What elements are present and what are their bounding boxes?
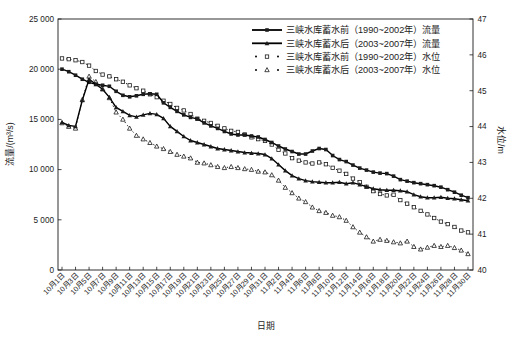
open-triangle-marker (398, 241, 402, 245)
y-right-tick-label: 47 (478, 15, 488, 24)
filled-square-marker (101, 83, 105, 87)
legend-dot (277, 69, 279, 71)
filled-square-marker (229, 132, 233, 136)
open-triangle-marker (317, 209, 321, 213)
open-square-marker (81, 60, 84, 63)
legend-label: 三峡水库蓄水前（1990~2002年）水位 (286, 51, 440, 62)
legend: 三峡水库蓄水前（1990~2002年）流量三峡水库蓄水后（2003~2007年）… (252, 24, 440, 75)
legend-dot (255, 56, 257, 58)
left-axis: 05 00010 00015 00020 00025 000 (29, 15, 62, 275)
filled-square-marker (344, 160, 348, 164)
filled-square-marker (365, 168, 369, 172)
open-square-marker (432, 216, 435, 219)
open-triangle-marker (310, 205, 314, 209)
series-0 (60, 67, 470, 199)
open-triangle-marker (209, 163, 213, 167)
filled-square-marker (453, 190, 457, 194)
open-square-marker (412, 206, 415, 209)
open-square-marker (439, 220, 442, 223)
open-square-marker (351, 177, 354, 180)
filled-square-marker (236, 133, 240, 137)
open-square-marker (121, 80, 124, 83)
open-square-marker (317, 161, 320, 164)
filled-square-marker (432, 184, 436, 188)
filled-square-marker (202, 121, 206, 125)
y-right-tick-label: 40 (478, 266, 488, 275)
open-square-marker (311, 162, 314, 165)
filled-square-marker (135, 94, 139, 98)
legend-item-2: 三峡水库蓄水前（1990~2002年）水位 (255, 51, 440, 62)
y-left-tick-label: 15 000 (29, 115, 54, 124)
open-triangle-marker (276, 178, 280, 182)
filled-square-marker (405, 179, 409, 183)
y-left-tick-label: 5 000 (34, 216, 55, 225)
filled-square-marker (358, 166, 362, 170)
open-square-marker (466, 231, 469, 234)
legend-open-square-marker (265, 55, 268, 58)
right-axis: 4041424344454647 (470, 15, 488, 275)
open-square-marker (236, 130, 239, 133)
open-square-marker (460, 229, 463, 232)
open-triangle-marker (215, 164, 219, 168)
open-triangle-marker (141, 137, 145, 141)
filled-square-marker (60, 67, 64, 71)
open-square-marker (399, 198, 402, 201)
open-square-marker (426, 213, 429, 216)
filled-square-marker (121, 94, 125, 98)
filled-square-marker (446, 188, 450, 192)
series-0-line (62, 69, 468, 198)
open-triangle-marker (202, 161, 206, 165)
filled-square-marker (426, 183, 430, 187)
legend-open-triangle-marker (265, 68, 269, 72)
open-triangle-marker (175, 152, 179, 156)
open-square-marker (229, 129, 232, 132)
open-triangle-marker (432, 243, 436, 247)
series-2-markers (60, 57, 469, 234)
open-triangle-marker (188, 156, 192, 160)
legend-label: 三峡水库蓄水后（2003~2007年）流量 (286, 38, 440, 49)
series-3 (60, 74, 470, 256)
open-triangle-marker (391, 240, 395, 244)
filled-square-marker (74, 73, 78, 77)
y-right-axis-title: 水位/m (496, 126, 507, 154)
legend-item-1: 三峡水库蓄水后（2003~2007年）流量 (252, 38, 440, 49)
open-triangle-marker (452, 245, 456, 249)
open-triangle-marker (303, 200, 307, 204)
filled-square-marker (243, 133, 247, 137)
open-square-marker (290, 156, 293, 159)
open-square-marker (94, 69, 97, 72)
filled-square-marker (216, 127, 220, 131)
open-square-marker (405, 202, 408, 205)
open-triangle-marker (459, 248, 463, 252)
filled-square-marker (311, 149, 315, 153)
filled-square-marker (385, 172, 389, 176)
open-square-marker (67, 57, 70, 60)
open-square-marker (114, 78, 117, 81)
open-triangle-marker (425, 245, 429, 249)
open-square-marker (175, 106, 178, 109)
open-triangle-marker (418, 247, 422, 251)
open-triangle-marker (134, 133, 138, 137)
series-3-markers (60, 74, 470, 256)
open-triangle-marker (324, 210, 328, 214)
filled-square-marker (270, 141, 274, 145)
filled-square-marker (108, 84, 112, 88)
open-square-marker (101, 73, 104, 76)
filled-square-marker (439, 185, 443, 189)
legend-item-3: 三峡水库蓄水后（2003~2007年）水位 (255, 64, 440, 75)
x-axis-title: 日期 (257, 321, 275, 331)
open-square-marker (189, 112, 192, 115)
open-triangle-marker (358, 230, 362, 234)
filled-square-marker (223, 130, 227, 134)
open-triangle-marker (195, 160, 199, 164)
open-square-marker (74, 59, 77, 62)
open-square-marker (223, 127, 226, 130)
open-square-marker (446, 222, 449, 225)
y-right-tick-label: 45 (478, 87, 488, 96)
series-0-markers (60, 67, 470, 199)
filled-square-marker (168, 106, 172, 110)
open-square-marker (284, 152, 287, 155)
filled-square-marker (419, 182, 423, 186)
open-square-marker (385, 194, 388, 197)
open-triangle-marker (337, 215, 341, 219)
